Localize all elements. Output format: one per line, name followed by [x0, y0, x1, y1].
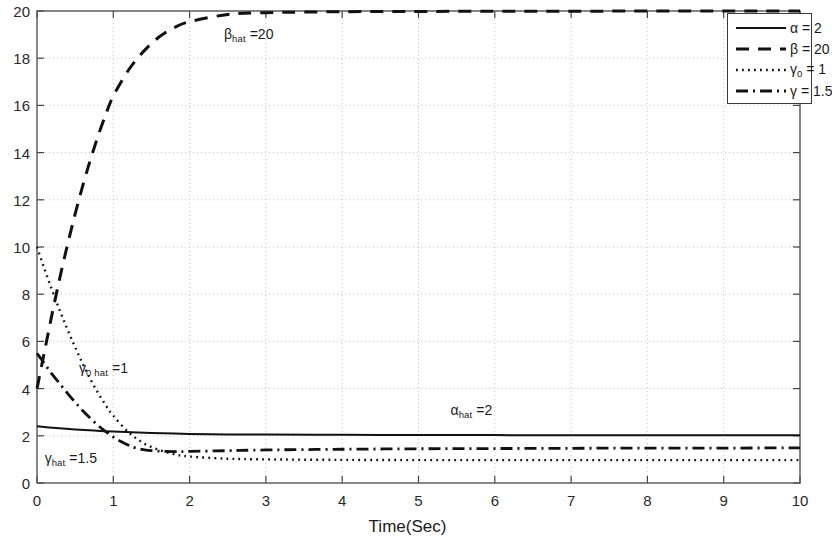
y-tick-label-18: 18 [0, 51, 30, 66]
legend-label-text-gamma0: γ [790, 61, 797, 77]
x-tick-label-8: 8 [627, 493, 667, 508]
legend-item-gamma[interactable]: γ = 1.5 [728, 81, 811, 101]
beta-hat-label-base: β [224, 26, 232, 42]
alpha-hat-label: αhat =2 [451, 403, 493, 419]
legend-line-sample-beta [735, 42, 787, 56]
x-tick-label-9: 9 [704, 493, 744, 508]
y-tick-label-4: 4 [0, 382, 30, 397]
legend-item-alpha[interactable]: α = 2 [728, 18, 811, 38]
legend-item-gamma0[interactable]: γ0 = 1 [728, 60, 811, 80]
legend-line-sample-gamma0 [735, 63, 787, 77]
legend-label-text-beta: β = 20 [790, 41, 830, 57]
alpha-hat-label-value: =2 [472, 402, 492, 418]
y-tick-label-16: 16 [0, 98, 30, 113]
legend-label-beta: β = 20 [790, 42, 830, 56]
gamma0-hat-label-base: γ [79, 360, 86, 376]
series-gamma0 [37, 247, 800, 460]
beta-hat-label-subscript: hat [232, 32, 246, 43]
x-tick-label-2: 2 [170, 493, 210, 508]
gridlines [37, 11, 800, 483]
legend-label-text-alpha: α = 2 [790, 20, 822, 36]
legend-label-text-gamma: γ = 1.5 [790, 83, 832, 99]
gamma-hat-label-base: γ [45, 450, 52, 466]
gamma-hat-label: γhat =1.5 [45, 451, 97, 467]
alpha-hat-label-base: α [451, 402, 459, 418]
x-tick-label-4: 4 [322, 493, 362, 508]
x-tick-label-1: 1 [93, 493, 133, 508]
x-tick-label-7: 7 [551, 493, 591, 508]
x-tick-label-6: 6 [475, 493, 515, 508]
y-tick-label-20: 20 [0, 4, 30, 19]
legend-line-sample-alpha [735, 21, 787, 35]
legend-label-gamma: γ = 1.5 [790, 84, 832, 98]
legend-label-gamma0: γ0 = 1 [790, 62, 826, 78]
gamma-hat-label-subscript: hat [52, 457, 66, 468]
y-tick-label-12: 12 [0, 193, 30, 208]
legend-label-value-gamma0: = 1 [802, 61, 826, 77]
x-tick-label-10: 10 [780, 493, 820, 508]
alpha-hat-label-subscript: hat [459, 409, 473, 420]
y-tick-label-8: 8 [0, 287, 30, 302]
y-tick-label-10: 10 [0, 240, 30, 255]
gamma0-hat-label-value: =1 [108, 360, 128, 376]
gamma0-hat-label-subscript: 0 hat [86, 366, 108, 377]
x-tick-label-0: 0 [17, 493, 57, 508]
y-tick-label-6: 6 [0, 334, 30, 349]
legend-label-alpha: α = 2 [790, 21, 822, 35]
y-tick-label-0: 0 [0, 476, 30, 491]
x-tick-label-3: 3 [246, 493, 286, 508]
x-tick-label-5: 5 [399, 493, 439, 508]
legend-item-beta[interactable]: β = 20 [728, 39, 811, 59]
beta-hat-label: βhat =20 [224, 27, 274, 43]
gamma-hat-label-value: =1.5 [65, 450, 97, 466]
gamma0-hat-label: γ0 hat =1 [79, 361, 128, 377]
y-tick-label-2: 2 [0, 429, 30, 444]
legend[interactable]: α = 2β = 20γ0 = 1γ = 1.5 [727, 13, 812, 104]
beta-hat-label-value: =20 [246, 26, 274, 42]
legend-line-sample-gamma [735, 84, 787, 98]
x-axis-title: Time(Sec) [0, 518, 815, 535]
y-tick-label-14: 14 [0, 146, 30, 161]
